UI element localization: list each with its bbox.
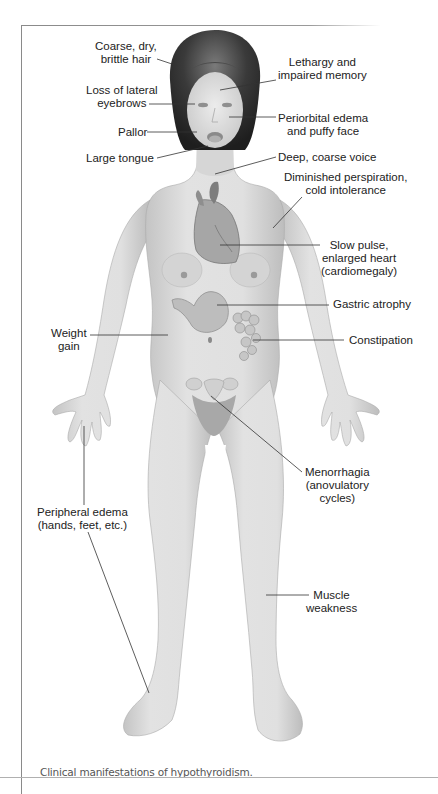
- label-line: Periorbital edema: [278, 112, 368, 125]
- label-line: enlarged heart: [321, 252, 397, 265]
- label-line: Slow pulse,: [321, 239, 397, 252]
- label-pallor: Pallor: [118, 126, 147, 139]
- label-line: eyebrows: [86, 97, 158, 110]
- body-silhouette: [53, 135, 380, 741]
- label-line: brittle hair: [95, 53, 157, 66]
- label-constipation: Constipation: [349, 334, 413, 347]
- label-periorbital-edema: Periorbital edema and puffy face: [278, 112, 368, 138]
- label-line: weakness: [306, 602, 357, 615]
- label-coarse-hair: Coarse, dry, brittle hair: [95, 40, 157, 66]
- label-line: and puffy face: [278, 125, 368, 138]
- label-line: (anovulatory: [305, 479, 370, 492]
- hypothyroidism-figure-illustration: [0, 0, 438, 794]
- label-line: (cardiomegaly): [321, 265, 397, 278]
- caption-rule: [0, 777, 438, 778]
- label-weight-gain: Weight gain: [51, 327, 87, 353]
- label-line: Loss of lateral: [86, 84, 158, 97]
- label-muscle-weakness: Muscle weakness: [306, 589, 357, 615]
- label-line: Peripheral edema: [37, 506, 128, 519]
- label-lethargy: Lethargy and impaired memory: [278, 56, 367, 82]
- label-line: gain: [51, 340, 87, 353]
- label-line: Lethargy and: [278, 56, 367, 69]
- label-line: Weight: [51, 327, 87, 340]
- label-deep-voice: Deep, coarse voice: [278, 151, 376, 164]
- label-menorrhagia: Menorrhagia (anovulatory cycles): [305, 466, 370, 505]
- label-line: cycles): [305, 492, 370, 505]
- label-line: Coarse, dry,: [95, 40, 157, 53]
- label-line: impaired memory: [278, 69, 367, 82]
- label-line: Muscle: [306, 589, 357, 602]
- label-diminished-perspiration: Diminished perspiration, cold intoleranc…: [284, 171, 407, 197]
- label-peripheral-edema: Peripheral edema (hands, feet, etc.): [37, 506, 128, 532]
- label-gastric-atrophy: Gastric atrophy: [333, 298, 411, 311]
- label-slow-pulse: Slow pulse, enlarged heart (cardiomegaly…: [321, 239, 397, 278]
- label-line: Menorrhagia: [305, 466, 370, 479]
- label-line: Diminished perspiration,: [284, 171, 407, 184]
- label-line: (hands, feet, etc.): [37, 519, 128, 532]
- label-large-tongue: Large tongue: [86, 152, 154, 165]
- label-lateral-eyebrows: Loss of lateral eyebrows: [86, 84, 158, 110]
- label-line: cold intolerance: [284, 184, 407, 197]
